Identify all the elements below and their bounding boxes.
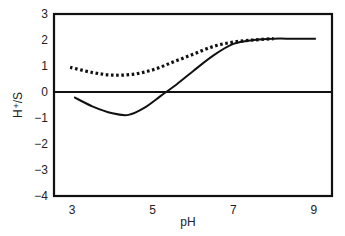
x-tick-label: 9 (311, 203, 318, 217)
y-tick-label: 2 (41, 33, 48, 47)
plot-frame (54, 14, 332, 196)
y-axis-ticks: 3210−1−2−3−4 (34, 7, 48, 203)
y-tick-label: −3 (34, 163, 48, 177)
y-tick-label: −2 (34, 137, 48, 151)
y-tick-label: 1 (41, 59, 48, 73)
series-solid-line (74, 39, 316, 116)
y-tick-label: −1 (34, 111, 48, 125)
series-dotted-line (70, 39, 273, 76)
x-tick-label: 5 (149, 203, 156, 217)
y-tick-label: 3 (41, 7, 48, 21)
line-chart: 3579 3210−1−2−3−4 pH H⁺/S (0, 0, 345, 236)
series-layer (70, 39, 316, 116)
plot-area (54, 14, 332, 196)
y-tick-label: 0 (41, 85, 48, 99)
x-axis-label: pH (180, 215, 195, 229)
y-tick-label: −4 (34, 189, 48, 203)
x-tick-label: 7 (230, 203, 237, 217)
y-axis-label: H⁺/S (11, 92, 25, 118)
x-tick-label: 3 (69, 203, 76, 217)
